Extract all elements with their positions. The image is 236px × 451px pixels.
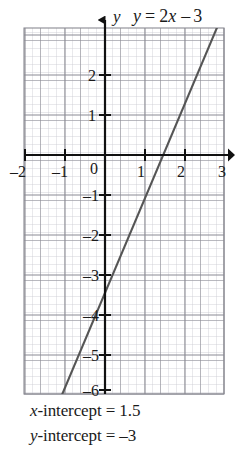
equation-x: x	[167, 6, 176, 26]
y-tick-label: –5	[82, 347, 99, 364]
linear-function-graph: –2 –1 0 1 2 3 2 1 –1 –2 –3 –4 –5 –6 y y=…	[0, 0, 236, 451]
x-tick-label: –1	[51, 163, 68, 180]
equation-lhs: y	[131, 6, 141, 26]
x-intercept-caption: x-intercept = 1.5	[30, 398, 236, 423]
y-axis-label: y	[111, 7, 121, 26]
x-intercept-text: -intercept = 1.5	[37, 401, 140, 420]
y-tick-label: –3	[82, 267, 99, 284]
y-intercept-caption: y-intercept = –3	[30, 423, 236, 448]
intercepts-caption: x-intercept = 1.5 y-intercept = –3	[30, 398, 236, 448]
y-tick-label: –4	[82, 307, 99, 324]
x-tick-label: 2	[177, 163, 185, 180]
y-tick-label: 2	[88, 67, 96, 84]
equation-coef: 2	[159, 6, 168, 26]
equation-constant: 3	[193, 6, 202, 26]
y-tick-label: –2	[82, 227, 99, 244]
y-tick-label: 1	[88, 107, 96, 124]
y-intercept-text: -intercept = –3	[37, 426, 136, 445]
x-tick-label: 1	[137, 163, 145, 180]
equation-eq: =	[145, 6, 155, 26]
y-tick-label: –6	[82, 382, 99, 399]
equation-minus: –	[180, 6, 191, 26]
x-tick-label: –2	[9, 163, 26, 180]
x-tick-label-origin: 0	[90, 160, 98, 177]
x-tick-label: 3	[218, 163, 226, 180]
y-tick-label: –1	[82, 187, 99, 204]
